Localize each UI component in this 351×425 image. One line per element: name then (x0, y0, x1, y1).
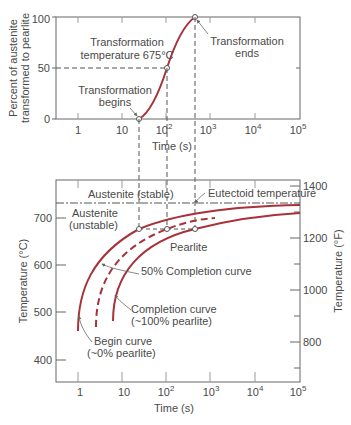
bottom-annotations: Austenite (stable) Austenite (unstable) … (69, 187, 316, 359)
chart-title-line1: Transformation (90, 36, 164, 48)
top-y-tick-labels: 100 50 0 (32, 13, 50, 125)
ends-label-line1: Transformation (210, 35, 284, 47)
completion-label-line1: Completion curve (131, 303, 217, 315)
bottom-chart: 700 600 500 400 1400 1200 1000 800 (17, 180, 344, 414)
austenite-unstable-line1: Austenite (72, 207, 118, 219)
begins-arrow (130, 108, 137, 116)
bottom-y-ticks (56, 218, 66, 360)
top-x-tick-1e5: 105 (290, 122, 307, 136)
top-x-tick-1e4: 104 (245, 122, 262, 136)
eutectoid-arrow (195, 193, 205, 203)
fifty-curve-label: 50% Completion curve (141, 265, 252, 277)
pearlite-label: Pearlite (170, 241, 207, 253)
completion-arrow (115, 295, 131, 310)
x-tick-1e3: 103 (203, 384, 220, 398)
top-x-tick-1e2: 102 (156, 122, 173, 136)
begins-label-line1: Transformation (78, 84, 152, 96)
svg-text:Percent of austenite: Percent of austenite (7, 19, 19, 117)
top-x-tick-1e3: 103 (200, 122, 217, 136)
top-x-tick-10: 10 (116, 124, 128, 136)
top-y-tick-50: 50 (38, 62, 50, 74)
y-tick-500: 500 (34, 306, 52, 318)
top-y-axis-label: Percent of austenite transformed to pear… (7, 13, 31, 123)
top-annotations: Transformation temperature 675°C Transfo… (78, 35, 284, 108)
chart-title-line2: temperature 675°C (80, 49, 173, 61)
top-y-tick-0: 0 (44, 113, 50, 125)
top-x-tick-labels: 1 10 102 103 104 105 (75, 122, 307, 136)
bottom-x-axis-label: Time (s) (154, 402, 194, 414)
y-axis-label-celsius: Temperature (°C) (17, 239, 29, 323)
y-right-tick-1200: 1200 (303, 232, 327, 244)
ends-arrow (197, 20, 208, 34)
y-tick-400: 400 (34, 354, 52, 366)
y-right-tick-1000: 1000 (303, 284, 327, 296)
begin-curve-arrow (79, 316, 92, 342)
top-y-tick-100: 100 (32, 13, 50, 25)
eutectoid-label: Eutectoid temperature (208, 187, 316, 199)
ends-label-line2: ends (235, 47, 259, 59)
bottom-x-tick-labels: 1 10 102 103 104 105 (77, 384, 307, 398)
figure: 100 50 0 1 10 102 103 104 105 Time (s) (0, 0, 351, 425)
top-x-tick-1: 1 (75, 124, 81, 136)
y-right-tick-800: 800 (303, 336, 321, 348)
bottom-right-tick-labels: 1400 1200 1000 800 (303, 180, 327, 348)
x-tick-1e2: 102 (158, 384, 175, 398)
x-tick-1e5: 105 (290, 384, 307, 398)
x-tick-10: 10 (118, 386, 130, 398)
begins-label-line2: begins (99, 96, 132, 108)
top-chart: 100 50 0 1 10 102 103 104 105 Time (s) (7, 13, 307, 152)
y-axis-label-fahrenheit: Temperature (°F) (332, 229, 344, 312)
completion-label-line2: (~100% pearlite) (131, 315, 212, 327)
end-point-675 (193, 227, 198, 232)
top-x-axis-label: Time (s) (152, 140, 192, 152)
fifty-point-675 (165, 227, 170, 232)
begin-label-line2: (~0% pearlite) (87, 347, 156, 359)
svg-text:transformed to pearlite: transformed to pearlite (19, 13, 31, 123)
begin-label-line1: Begin curve (94, 335, 152, 347)
x-tick-1: 1 (77, 386, 83, 398)
begin-point-675 (137, 227, 142, 232)
bottom-y-tick-labels: 700 600 500 400 (34, 212, 52, 366)
y-tick-600: 600 (34, 259, 52, 271)
fifty-curve-arrow (102, 264, 139, 274)
austenite-stable-label: Austenite (stable) (88, 188, 174, 200)
y-tick-700: 700 (34, 212, 52, 224)
austenite-unstable-line2: (unstable) (69, 219, 118, 231)
x-tick-1e4: 104 (247, 384, 264, 398)
